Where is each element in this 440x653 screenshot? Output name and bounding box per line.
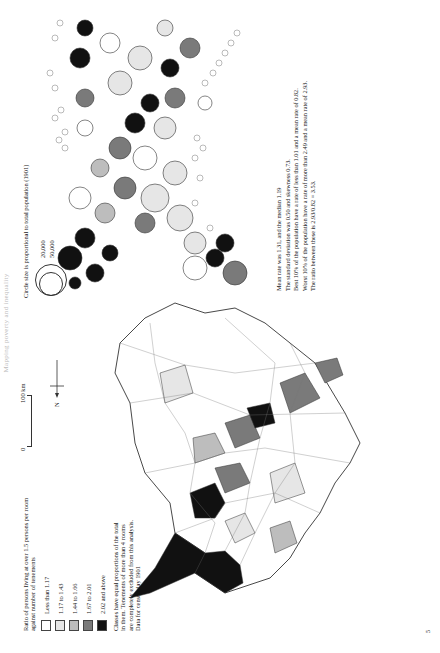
stats-line: Best 10% of the population have a rate o… — [292, 11, 301, 291]
legend-title: Ratio of persons living at over 1.5 pers… — [22, 481, 37, 631]
running-head: Mapping poverty and inequality — [2, 113, 10, 533]
swatch-icon — [41, 620, 51, 631]
north-arrow-icon — [47, 358, 69, 408]
stats-line: Worst 10% of the population have a rate … — [301, 11, 310, 291]
legend-class-label: Less than 1.17 — [43, 577, 50, 614]
choropleth-map — [75, 283, 375, 613]
swatch-icon — [97, 620, 107, 631]
swatch-icon — [55, 620, 65, 631]
stats-block: Mean rate was 1.31, and the median 1.19 … — [275, 11, 318, 291]
swatch-icon — [69, 620, 79, 631]
scale-line — [31, 395, 32, 447]
scale-end-label: 100 km — [19, 383, 26, 403]
scale-tick — [27, 395, 32, 396]
legend-class-label: 1.17 to 1.43 — [57, 583, 64, 614]
scale-start-label: 0 — [19, 448, 26, 451]
swatch-icon — [83, 620, 93, 631]
book-page: Mapping poverty and inequality Ratio of … — [0, 0, 440, 653]
legend-class: Less than 1.17 — [41, 481, 52, 631]
page-number: 5 — [425, 630, 431, 633]
stats-line: The ratio between these is 2.93/0.82 = 3… — [309, 11, 318, 291]
legend-class: 1.17 to 1.43 — [55, 481, 66, 631]
stats-line: Mean rate was 1.31, and the median 1.19 — [275, 11, 284, 291]
cartogram — [25, 8, 255, 298]
north-label: N — [53, 402, 60, 407]
stats-line: The standard deviation was 0.50 and skew… — [284, 11, 293, 291]
